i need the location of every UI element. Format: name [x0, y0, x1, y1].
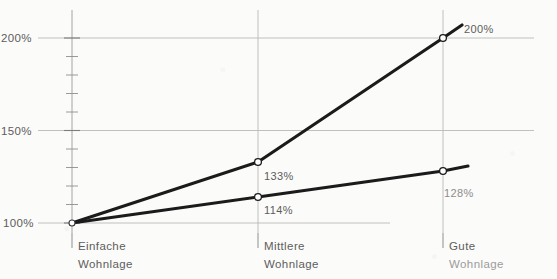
value-label-200: 200% — [464, 23, 494, 35]
line-chart: 200% 150% 100% 133% 114% 200% 128% Einfa… — [0, 0, 557, 279]
category-label-einfache-line2: Wohnlage — [78, 258, 133, 270]
data-point-shallow-gute — [440, 168, 447, 175]
series-line-steep — [72, 25, 462, 223]
data-point-steep-gute — [440, 35, 447, 42]
y-tick-label-100: 100% — [3, 217, 34, 229]
data-point-shallow-mittlere — [255, 194, 262, 201]
data-point-steep-mittlere — [255, 159, 262, 166]
category-tick-stems — [72, 233, 443, 248]
y-tick-label-150: 150% — [1, 125, 32, 137]
category-label-gute-line1: Gute — [449, 240, 476, 252]
category-label-einfache-line1: Einfache — [78, 240, 126, 252]
chart-container: 200% 150% 100% 133% 114% 200% 128% Einfa… — [0, 0, 557, 279]
value-label-133: 133% — [264, 170, 294, 182]
category-label-mittlere-line1: Mittlere — [264, 240, 305, 252]
data-point-origin — [69, 220, 75, 226]
value-label-128: 128% — [444, 187, 474, 199]
value-label-114: 114% — [264, 204, 293, 216]
category-label-gute-line2: Wohnlage — [449, 258, 504, 270]
y-tick-label-200: 200% — [1, 32, 32, 44]
category-label-mittlere-line2: Wohnlage — [264, 258, 319, 270]
